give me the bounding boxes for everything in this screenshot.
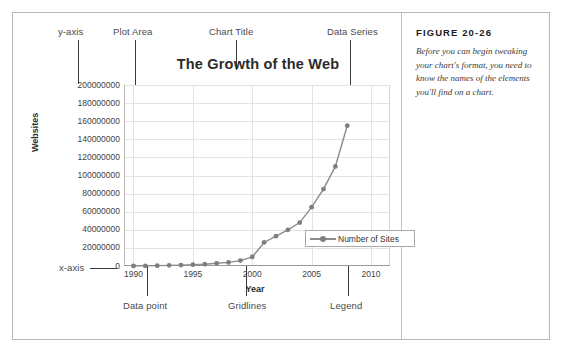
y-axis-tick-label: 120000000 xyxy=(54,152,120,162)
y-axis-tick-label: 200000000 xyxy=(54,80,120,90)
data-point-marker[interactable] xyxy=(274,234,279,239)
data-point-marker[interactable] xyxy=(321,187,326,192)
data-point-marker[interactable] xyxy=(297,220,302,225)
y-axis-ticks: 0200000004000000060000000800000001000000… xyxy=(52,0,120,353)
data-point-marker[interactable] xyxy=(238,258,243,263)
y-axis-tick-label: 80000000 xyxy=(54,188,120,198)
data-point-marker[interactable] xyxy=(345,123,350,128)
x-axis-tick-label: 2010 xyxy=(351,269,391,279)
legend-marker-icon xyxy=(310,233,336,245)
data-point-marker[interactable] xyxy=(309,205,314,210)
callout-label-gridlines: Gridlines xyxy=(228,300,266,311)
callout-label-chart-title: Chart Title xyxy=(209,26,253,37)
y-axis-tick-label: 180000000 xyxy=(54,98,120,108)
data-point-marker[interactable] xyxy=(214,261,219,266)
data-point-marker[interactable] xyxy=(155,263,160,268)
y-axis-tick-label: 160000000 xyxy=(54,116,120,126)
data-point-marker[interactable] xyxy=(190,262,195,267)
data-point-marker[interactable] xyxy=(226,260,231,265)
y-axis-tick-label: 100000000 xyxy=(54,170,120,180)
y-axis-tick-label: 40000000 xyxy=(54,224,120,234)
data-point-marker[interactable] xyxy=(167,263,172,268)
y-axis-tick-label: 60000000 xyxy=(54,206,120,216)
callout-label-data-point: Data point xyxy=(123,300,167,311)
data-point-marker[interactable] xyxy=(285,227,290,232)
data-point-marker[interactable] xyxy=(202,262,207,267)
data-point-marker[interactable] xyxy=(333,164,338,169)
figure-caption: Before you can begin tweaking your chart… xyxy=(416,45,538,99)
data-point-marker[interactable] xyxy=(250,255,255,260)
y-axis-tick-label: 0 xyxy=(54,261,120,271)
data-point-marker[interactable] xyxy=(143,263,148,268)
chart-title: The Growth of the Web xyxy=(143,56,373,72)
data-point-marker[interactable] xyxy=(131,264,136,269)
legend-series-label: Number of Sites xyxy=(336,234,399,244)
x-axis-tick-label: 1995 xyxy=(173,269,213,279)
x-axis-tick-label: 1990 xyxy=(114,269,154,279)
figure-page: y-axis Plot Area Chart Title Data Series… xyxy=(0,0,564,353)
axis-title-x: Year xyxy=(200,284,310,294)
x-axis-tick-label: 2005 xyxy=(292,269,332,279)
chart-legend[interactable]: Number of Sites xyxy=(305,230,415,247)
callout-label-data-series: Data Series xyxy=(327,26,378,37)
callout-label-legend: Legend xyxy=(330,300,362,311)
figure-divider xyxy=(401,13,402,339)
x-axis-tick-label: 2000 xyxy=(232,269,272,279)
y-axis-tick-label: 140000000 xyxy=(54,134,120,144)
data-point-marker[interactable] xyxy=(262,240,267,245)
axis-title-y: Websites xyxy=(30,113,40,152)
y-axis-tick-label: 20000000 xyxy=(54,242,120,252)
data-point-marker[interactable] xyxy=(179,263,184,268)
figure-heading: FIGURE 20-26 xyxy=(416,27,541,38)
